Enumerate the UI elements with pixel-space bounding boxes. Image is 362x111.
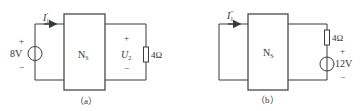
wire-b-top-right bbox=[288, 24, 327, 30]
resistor-a bbox=[144, 47, 149, 62]
wire-a-bottom-left bbox=[35, 61, 64, 80]
source-plus-a: + bbox=[19, 36, 24, 46]
voltage-label-a: U2 bbox=[121, 49, 131, 61]
source-value-a: 8V bbox=[10, 48, 23, 59]
circuit-a: I1′ + 8V − NS + U2 − 4Ω （a） bbox=[10, 11, 163, 106]
voltage-source-a bbox=[28, 47, 42, 61]
source-minus-a: − bbox=[19, 62, 24, 72]
wire-a-top-left bbox=[35, 24, 64, 46]
circuit-b: I1″ NS 4Ω + 12V − （b） bbox=[219, 9, 353, 105]
source-plus-b: + bbox=[340, 46, 345, 56]
resistor-b bbox=[325, 30, 330, 45]
wire-b-bottom-right bbox=[288, 71, 327, 80]
source-value-b: 12V bbox=[335, 58, 353, 69]
caption-b: （b） bbox=[256, 95, 279, 105]
source-minus-b: − bbox=[340, 72, 345, 82]
current-label-a: I1′ bbox=[42, 11, 49, 24]
current-label-b: I1″ bbox=[226, 9, 233, 22]
caption-a: （a） bbox=[75, 96, 97, 106]
voltage-source-b bbox=[320, 57, 334, 71]
voltage-plus-a: + bbox=[124, 33, 129, 43]
circuit-figure: I1′ + 8V − NS + U2 − 4Ω （a） I1″ NS 4Ω + … bbox=[0, 0, 362, 111]
wire-b-left bbox=[219, 24, 248, 80]
resistor-value-b: 4Ω bbox=[332, 33, 344, 43]
voltage-minus-a: − bbox=[124, 63, 129, 73]
resistor-value-a: 4Ω bbox=[151, 50, 163, 60]
